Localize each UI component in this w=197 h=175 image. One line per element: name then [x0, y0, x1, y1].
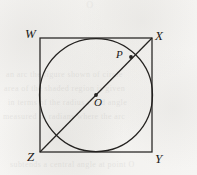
vertex-label-y: Y: [155, 152, 162, 165]
geometry-figure: o an arc the figure shown of circle area…: [0, 0, 197, 175]
vertex-label-w: W: [25, 27, 36, 40]
vertex-label-x: X: [155, 29, 163, 42]
point-p-marker: [129, 55, 133, 59]
vertex-label-z: Z: [27, 150, 34, 163]
point-label-p: P: [116, 49, 123, 60]
point-label-o: O: [94, 97, 102, 108]
